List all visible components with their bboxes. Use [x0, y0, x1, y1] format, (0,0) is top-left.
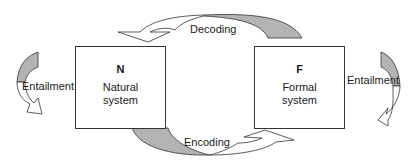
- entailment-formal-arrow: [378, 52, 400, 126]
- entailment-natural-label: Entailment: [22, 80, 74, 92]
- entailment-formal-label: Entailment: [347, 74, 399, 86]
- formal-system-box: F Formal system: [254, 46, 345, 129]
- formal-system-symbol: F: [255, 63, 344, 75]
- natural-system-symbol: N: [76, 63, 165, 75]
- formal-system-label: Formal system: [255, 81, 344, 107]
- encoding-label: Encoding: [184, 136, 230, 148]
- natural-system-box: N Natural system: [75, 46, 166, 129]
- decoding-label: Decoding: [190, 23, 236, 35]
- natural-system-label: Natural system: [76, 81, 165, 107]
